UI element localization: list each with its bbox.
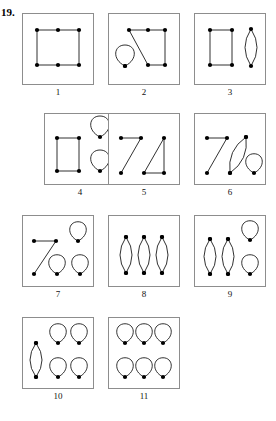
panel-graph-2 bbox=[108, 13, 180, 85]
panel-label-11: 11 bbox=[108, 392, 180, 401]
panel-label-4: 4 bbox=[44, 188, 116, 197]
figure-page: ... .... ..... ... ... 19. 1234567891011 bbox=[0, 0, 276, 421]
panel-11 bbox=[108, 317, 180, 389]
panel-graph-3 bbox=[194, 13, 266, 85]
panel-graph-7 bbox=[22, 215, 94, 287]
cutoff-header-text: ... .... ..... ... ... bbox=[18, 0, 73, 1]
panel-3 bbox=[194, 13, 266, 85]
panel-label-9: 9 bbox=[194, 290, 266, 299]
panel-6 bbox=[194, 113, 266, 185]
panel-label-2: 2 bbox=[108, 88, 180, 97]
panel-4 bbox=[44, 113, 116, 185]
panel-graph-11 bbox=[108, 317, 180, 389]
panel-7 bbox=[22, 215, 94, 287]
panel-5 bbox=[108, 113, 180, 185]
panel-8 bbox=[108, 215, 180, 287]
panel-2 bbox=[108, 13, 180, 85]
panel-label-1: 1 bbox=[22, 88, 94, 97]
panel-label-8: 8 bbox=[108, 290, 180, 299]
panel-label-6: 6 bbox=[194, 188, 266, 197]
panel-9 bbox=[194, 215, 266, 287]
panel-10 bbox=[22, 317, 94, 389]
panel-graph-8 bbox=[108, 215, 180, 287]
panel-label-7: 7 bbox=[22, 290, 94, 299]
panel-label-5: 5 bbox=[108, 188, 180, 197]
panel-graph-5 bbox=[108, 113, 180, 185]
panel-1 bbox=[22, 13, 94, 85]
panel-graph-4 bbox=[44, 113, 116, 185]
panel-graph-6 bbox=[194, 113, 266, 185]
panel-graph-9 bbox=[194, 215, 266, 287]
panel-graph-1 bbox=[22, 13, 94, 85]
panel-label-3: 3 bbox=[194, 88, 266, 97]
panel-graph-10 bbox=[22, 317, 94, 389]
problem-number: 19. bbox=[1, 7, 15, 18]
panel-label-10: 10 bbox=[22, 392, 94, 401]
